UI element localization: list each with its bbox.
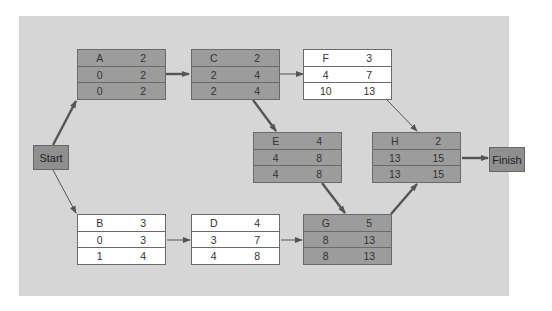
late-finish: 13: [348, 250, 392, 262]
activity-name: C: [192, 52, 236, 64]
late-finish: 13: [348, 85, 392, 97]
finish-label: Finish: [492, 154, 521, 166]
late-finish: 2: [122, 85, 166, 97]
late-finish: 8: [298, 168, 342, 180]
late-finish: 4: [122, 250, 166, 262]
late-start: 1: [78, 250, 122, 262]
late-start: 13: [373, 168, 417, 180]
duration: 3: [122, 217, 166, 229]
early-finish: 4: [236, 69, 280, 81]
duration: 2: [236, 52, 280, 64]
early-finish: 2: [122, 69, 166, 81]
duration: 3: [348, 52, 392, 64]
early-start: 0: [78, 69, 122, 81]
duration: 4: [298, 135, 342, 147]
activity-node-a: A2 02 02: [77, 49, 166, 100]
late-finish: 4: [236, 85, 280, 97]
late-start: 4: [254, 168, 298, 180]
late-finish: 8: [236, 250, 280, 262]
early-finish: 7: [236, 234, 280, 246]
activity-name: B: [78, 217, 122, 229]
activity-node-f: F3 47 1013: [303, 49, 392, 100]
early-start: 13: [373, 152, 417, 164]
late-start: 8: [304, 250, 348, 262]
duration: 4: [236, 217, 280, 229]
activity-node-c: C2 24 24: [191, 49, 280, 100]
late-start: 2: [192, 85, 236, 97]
late-start: 0: [78, 85, 122, 97]
activity-name: D: [192, 217, 236, 229]
activity-name: G: [304, 217, 348, 229]
early-finish: 7: [348, 69, 392, 81]
activity-node-e: E4 48 48: [253, 132, 342, 183]
finish-node: Finish: [489, 147, 525, 172]
early-start: 8: [304, 234, 348, 246]
early-finish: 8: [298, 152, 342, 164]
duration: 5: [348, 217, 392, 229]
early-finish: 15: [417, 152, 461, 164]
early-start: 2: [192, 69, 236, 81]
activity-node-h: H2 1315 1315: [372, 132, 461, 183]
start-label: Start: [39, 152, 62, 164]
early-start: 4: [304, 69, 348, 81]
start-node: Start: [33, 145, 69, 170]
early-start: 0: [78, 234, 122, 246]
early-finish: 3: [122, 234, 166, 246]
activity-node-d: D4 37 48: [191, 214, 280, 265]
early-finish: 13: [348, 234, 392, 246]
activity-name: E: [254, 135, 298, 147]
late-finish: 15: [417, 168, 461, 180]
activity-name: F: [304, 52, 348, 64]
late-start: 10: [304, 85, 348, 97]
activity-name: A: [78, 52, 122, 64]
duration: 2: [122, 52, 166, 64]
activity-node-g: G5 813 813: [303, 214, 392, 265]
early-start: 4: [254, 152, 298, 164]
duration: 2: [417, 135, 461, 147]
activity-node-b: B3 03 14: [77, 214, 166, 265]
early-start: 3: [192, 234, 236, 246]
activity-name: H: [373, 135, 417, 147]
late-start: 4: [192, 250, 236, 262]
